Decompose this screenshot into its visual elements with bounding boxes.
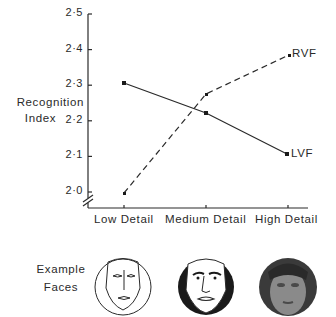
rvf-points [123, 54, 291, 195]
y-axis-label-line: Index [4, 110, 84, 126]
y-tick-label: 2·1 [53, 148, 83, 160]
example-faces-label-line: Faces [30, 278, 92, 296]
low-detail-face [95, 259, 151, 316]
x-tick-label-medium: Medium Detail [165, 213, 246, 225]
y-tick-label: 2·4 [53, 42, 83, 54]
rvf-series-label: RVF [292, 47, 317, 59]
y-tick-label: 2·5 [53, 6, 83, 18]
lvf-points [122, 81, 289, 156]
example-faces-label: Example Faces [30, 260, 92, 296]
x-tick-label-low: Low Detail [94, 213, 154, 225]
lvf-series-label: LVF [291, 147, 313, 159]
medium-detail-face [178, 259, 234, 315]
y-tick-label: 2·0 [53, 184, 83, 196]
example-faces-label-line: Example [30, 260, 92, 278]
rvf-series-line [124, 55, 289, 193]
high-detail-face [259, 258, 317, 316]
x-tick-label-high: High Detail [255, 213, 318, 225]
y-axis-label-line: Recognition [4, 94, 84, 110]
y-axis-label: Recognition Index [4, 94, 84, 126]
y-tick-label: 2·3 [53, 77, 83, 89]
